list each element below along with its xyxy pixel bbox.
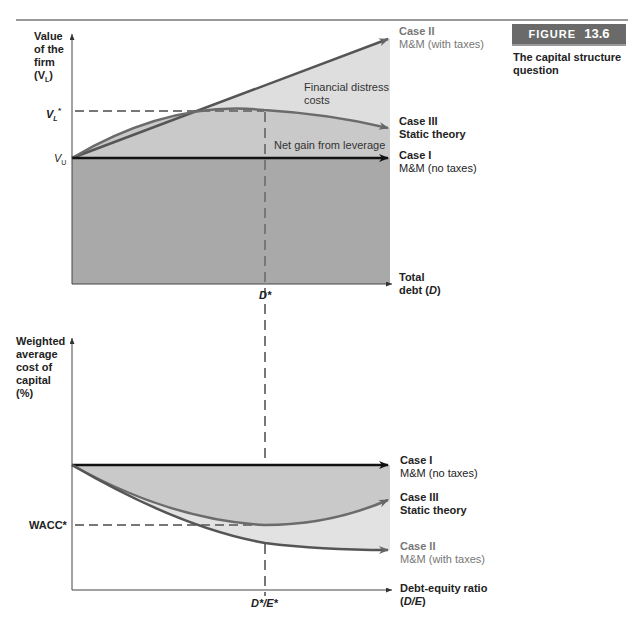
y-label-line: firm xyxy=(34,56,64,69)
top-x-axis-label: Total debt (D) xyxy=(399,271,441,297)
figure-badge: FIGURE 13.6 xyxy=(512,24,626,46)
bottom-case3-label: Case III Static theory xyxy=(400,491,467,517)
figure-badge-label: FIGURE xyxy=(529,28,577,40)
y-label-var: (VL) xyxy=(34,69,64,86)
bottom-case2-label: Case II M&M (with taxes) xyxy=(400,540,485,566)
y-label-line: Value xyxy=(34,30,64,43)
vl-star-label: VL* xyxy=(46,104,61,125)
figure-badge-number: 13.6 xyxy=(584,26,609,41)
d-star-label: D* xyxy=(259,289,271,302)
base-value-region xyxy=(72,158,390,284)
top-y-axis-label: Value of the firm (VL) xyxy=(34,30,64,86)
top-case2-label: Case II M&M (with taxes) xyxy=(399,25,484,51)
y-label-line: of the xyxy=(34,43,64,56)
top-case3-label: Case III Static theory xyxy=(399,115,466,141)
bottom-x-axis-label: Debt-equity ratio (D/E) xyxy=(400,582,487,608)
figure-caption: The capital structure question xyxy=(513,51,633,77)
bottom-chart xyxy=(72,338,392,590)
vu-label: VU xyxy=(54,152,66,169)
financial-distress-label: Financial distress costs xyxy=(304,81,389,107)
top-chart xyxy=(72,34,392,284)
top-case1-label: Case I M&M (no taxes) xyxy=(399,149,477,175)
bottom-y-axis-label: Weighted average cost of capital (%) xyxy=(16,335,65,400)
wacc-star-label: WACC* xyxy=(29,519,67,532)
de-star-label: D*/E* xyxy=(251,597,278,610)
bottom-case1-label: Case I M&M (no taxes) xyxy=(400,454,478,480)
net-gain-label: Net gain from leverage xyxy=(274,139,385,152)
